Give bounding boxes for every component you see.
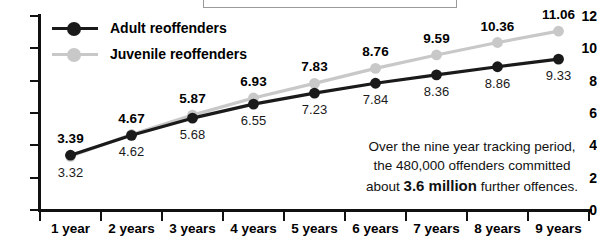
- data-point-label: 4.67: [108, 112, 156, 126]
- annotation-line-2: the 480,000 offenders committed: [352, 156, 592, 175]
- data-point-marker[interactable]: [370, 63, 381, 74]
- reoffending-rates-chart: 121086420 1 year2 years3 years4 years5 y…: [0, 0, 597, 244]
- legend-label-juvenile: Juvenile reoffenders: [110, 47, 247, 61]
- legend-item-juvenile[interactable]: Juvenile reoffenders: [52, 42, 247, 66]
- data-point-label: 5.87: [169, 92, 217, 106]
- data-point-label: 11.06: [535, 8, 583, 22]
- annotation-highlight: 3.6 million: [404, 177, 477, 194]
- data-point-label: 9.59: [413, 32, 461, 46]
- data-point-label: 10.36: [474, 20, 522, 34]
- data-point-marker[interactable]: [126, 130, 137, 141]
- chart-legend: Adult reoffenders Juvenile reoffenders: [52, 16, 247, 68]
- data-point-label: 8.76: [352, 45, 400, 59]
- data-point-marker[interactable]: [187, 113, 198, 124]
- data-point-marker[interactable]: [553, 26, 564, 37]
- data-point-label: 9.33: [535, 69, 583, 82]
- annotation-line-3: about 3.6 million further offences.: [352, 175, 592, 196]
- data-point-marker[interactable]: [309, 78, 320, 89]
- data-point-label: 3.39: [47, 132, 95, 146]
- data-point-label: 6.55: [230, 114, 278, 127]
- data-point-label: 3.32: [47, 166, 95, 179]
- annotation-prefix: about: [366, 179, 404, 194]
- legend-label-adult: Adult reoffenders: [110, 21, 227, 35]
- legend-marker-adult-icon: [52, 21, 98, 35]
- legend-marker-juvenile-icon: [52, 47, 98, 61]
- data-point-label: 5.68: [169, 128, 217, 141]
- data-point-marker[interactable]: [431, 69, 442, 80]
- summary-annotation: Over the nine year tracking period, the …: [352, 137, 592, 197]
- data-point-marker[interactable]: [248, 99, 259, 110]
- data-point-marker[interactable]: [309, 88, 320, 99]
- data-point-marker[interactable]: [370, 78, 381, 89]
- data-point-label: 8.36: [413, 85, 461, 98]
- data-point-label: 7.23: [291, 103, 339, 116]
- data-point-marker[interactable]: [553, 54, 564, 65]
- data-point-label: 4.62: [108, 145, 156, 158]
- legend-item-adult[interactable]: Adult reoffenders: [52, 16, 247, 40]
- data-point-marker[interactable]: [431, 50, 442, 61]
- data-point-marker[interactable]: [65, 150, 76, 161]
- data-point-marker[interactable]: [492, 61, 503, 72]
- annotation-line-1: Over the nine year tracking period,: [352, 137, 592, 156]
- data-point-label: 8.86: [474, 77, 522, 90]
- data-point-label: 7.84: [352, 93, 400, 106]
- data-point-label: 6.93: [230, 75, 278, 89]
- data-point-marker[interactable]: [492, 37, 503, 48]
- data-point-label: 7.83: [291, 60, 339, 74]
- annotation-suffix: further offences.: [477, 179, 578, 194]
